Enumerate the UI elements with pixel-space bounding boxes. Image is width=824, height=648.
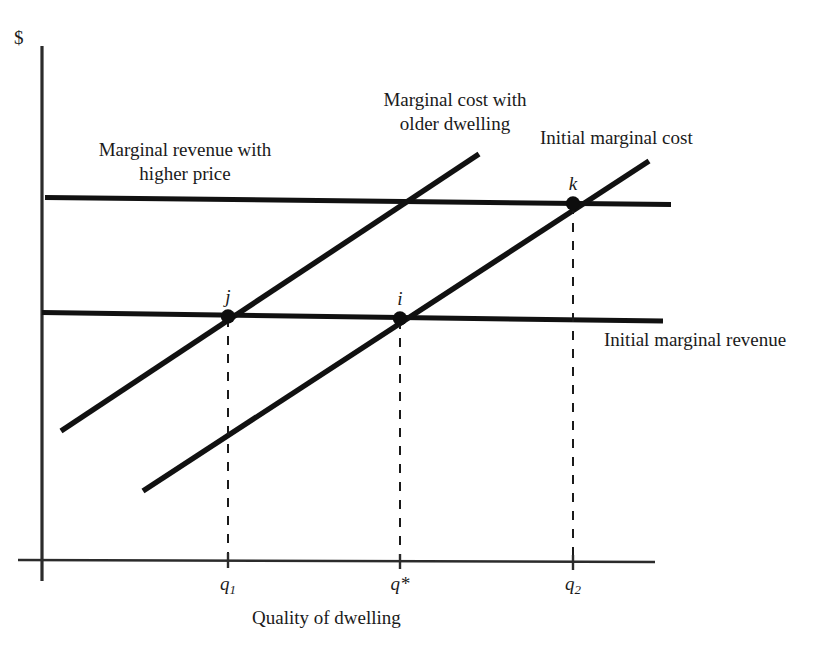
curve-marginal-cost-older-dwelling xyxy=(61,154,479,431)
label-initial-marginal-revenue: Initial marginal revenue xyxy=(604,328,786,352)
label-marginal-cost-older-dwelling-line1: Marginal cost with xyxy=(350,88,560,112)
label-initial-marginal-cost: Initial marginal cost xyxy=(540,126,693,150)
point-marker-i xyxy=(393,311,407,325)
point-label-j: j xyxy=(216,285,240,309)
x-axis-title: Quality of dwelling xyxy=(252,606,401,630)
label-marginal-cost-older-dwelling: Marginal cost with older dwelling xyxy=(350,88,560,137)
tick-label-q2: q2 xyxy=(553,572,593,598)
tick-label-qstar: q* xyxy=(380,572,420,596)
tick-label-q2-base: q xyxy=(565,573,575,594)
tick-label-q2-subscript: 2 xyxy=(575,582,581,597)
x-axis xyxy=(18,560,655,562)
droplines-group xyxy=(228,205,573,556)
tick-label-q1-base: q xyxy=(220,573,230,594)
y-axis-unit-label: $ xyxy=(14,26,24,50)
label-marginal-revenue-higher-price-line2: higher price xyxy=(56,162,314,186)
label-marginal-revenue-higher-price: Marginal revenue with higher price xyxy=(56,138,314,187)
point-marker-j xyxy=(221,309,235,323)
point-marker-k xyxy=(566,196,580,210)
economics-diagram: $ Marginal revenue with higher price Mar… xyxy=(0,0,824,648)
tick-label-q1: q1 xyxy=(208,572,248,598)
label-marginal-cost-older-dwelling-line2: older dwelling xyxy=(350,112,560,136)
tick-label-q1-subscript: 1 xyxy=(230,582,236,597)
point-label-k: k xyxy=(561,172,585,196)
label-marginal-revenue-higher-price-line1: Marginal revenue with xyxy=(56,138,314,162)
point-label-i: i xyxy=(388,287,412,311)
curve-initial-marginal-revenue xyxy=(42,313,663,322)
